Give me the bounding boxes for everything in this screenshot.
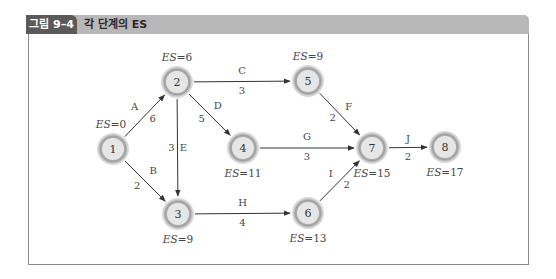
duration-label: 3 — [168, 142, 174, 153]
duration-label: 2 — [343, 179, 349, 190]
es-label: ES=17 — [425, 166, 463, 178]
node-number: 7 — [369, 142, 376, 155]
node-8: 8ES=17 — [425, 131, 463, 178]
es-label: ES=0 — [95, 118, 126, 130]
edge-d — [189, 94, 230, 135]
duration-label: 6 — [149, 113, 155, 124]
activity-label: E — [180, 142, 187, 153]
node-2: 2ES=6 — [161, 51, 193, 98]
activity-label: I — [329, 168, 333, 179]
es-label: ES=13 — [288, 232, 326, 244]
activity-label: J — [405, 133, 410, 144]
duration-label: 4 — [239, 217, 245, 228]
node-4: 4ES=11 — [223, 132, 261, 179]
es-label: ES=11 — [223, 167, 261, 179]
node-3: 3ES=9 — [162, 198, 194, 245]
edge-e — [177, 99, 178, 196]
node-7: 7ES=15 — [352, 132, 390, 179]
node-1: 1ES=0 — [95, 118, 129, 165]
duration-label: 2 — [329, 112, 335, 123]
es-label: ES=6 — [161, 51, 193, 63]
network-diagram: A6B2C3D5E3F2G3H4I2J2 1ES=02ES=63ES=94ES=… — [0, 0, 556, 279]
edge-h — [195, 213, 290, 214]
activity-label: D — [214, 100, 222, 111]
activity-label: A — [130, 101, 139, 112]
node-number: 1 — [110, 143, 117, 156]
es-label: ES=9 — [162, 233, 193, 245]
node-number: 8 — [442, 141, 449, 154]
edge-j — [389, 147, 427, 148]
edge-b — [125, 161, 165, 201]
node-number: 6 — [305, 207, 312, 220]
duration-label: 2 — [134, 180, 140, 191]
es-label: ES=15 — [352, 167, 390, 179]
node-number: 2 — [174, 76, 181, 89]
activity-label: C — [238, 65, 246, 76]
node-6: 6ES=13 — [288, 197, 326, 244]
activity-label: F — [345, 101, 352, 112]
edge-f — [320, 93, 360, 135]
activity-label: H — [238, 197, 247, 208]
node-5: 5ES=9 — [292, 50, 324, 97]
duration-label: 5 — [198, 113, 204, 124]
node-number: 3 — [175, 208, 182, 221]
node-number: 5 — [305, 75, 312, 88]
activity-label: G — [303, 131, 311, 142]
node-number: 4 — [240, 142, 247, 155]
duration-label: 3 — [304, 151, 310, 162]
duration-label: 3 — [239, 85, 245, 96]
edge-c — [194, 81, 290, 82]
duration-label: 2 — [405, 151, 411, 162]
es-label: ES=9 — [292, 50, 323, 62]
activity-label: B — [149, 165, 156, 176]
